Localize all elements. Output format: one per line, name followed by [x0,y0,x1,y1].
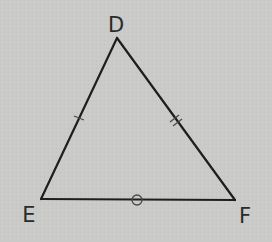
triangle-diagram: D E F [0,0,272,242]
side-ef [41,199,235,200]
vertex-label-f: F [239,206,251,227]
paper-background [0,0,272,242]
vertex-label-e: E [22,205,35,226]
triangle-def-svg [0,0,272,242]
vertex-label-d: D [108,15,124,36]
